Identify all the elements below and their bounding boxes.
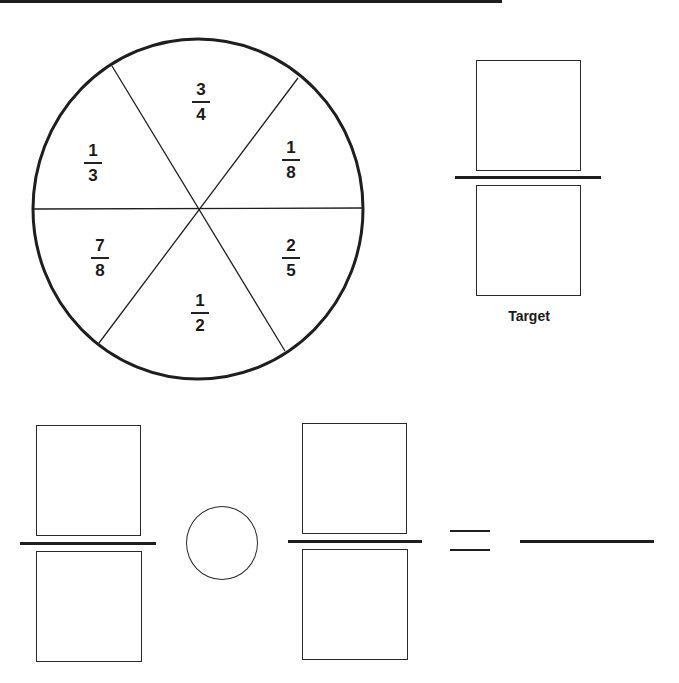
spinner-section-lower-left: 7 8 [80,236,120,281]
fraction-bar [191,312,209,314]
spinner-section-upper-left: 1 3 [73,141,113,186]
denominator: 5 [271,261,311,281]
fraction-bar [192,101,210,103]
fraction2-numerator-box[interactable] [302,423,407,534]
numerator: 3 [181,80,221,100]
numerator: 1 [180,291,220,311]
numerator: 7 [80,236,120,256]
denominator: 8 [271,163,311,183]
fraction2-bar [288,540,422,543]
fraction-bar [282,257,300,259]
spinner-section-top: 3 4 [181,80,221,125]
spinner-section-upper-right: 1 8 [271,138,311,183]
numerator: 1 [73,141,113,161]
fraction1-bar [20,542,156,545]
operator-circle[interactable] [186,506,258,580]
equals-sign-top [450,530,490,532]
target-label: Target [494,308,564,324]
fraction-bar [91,257,109,259]
numerator: 1 [271,138,311,158]
denominator: 4 [181,105,221,125]
target-fraction-bar [455,176,601,179]
fraction1-numerator-box[interactable] [36,425,141,536]
fraction-bar [282,159,300,161]
spinner-section-bottom: 1 2 [180,291,220,336]
spinner-section-lower-right: 2 5 [271,236,311,281]
equals-sign-bottom [450,549,490,551]
denominator: 3 [73,166,113,186]
answer-line[interactable] [520,540,654,543]
fraction2-denominator-box[interactable] [302,549,408,660]
denominator: 2 [180,316,220,336]
fraction-bar [84,162,102,164]
numerator: 2 [271,236,311,256]
fraction1-denominator-box[interactable] [36,551,142,662]
target-numerator-box[interactable] [476,60,581,171]
target-denominator-box[interactable] [476,185,581,296]
denominator: 8 [80,261,120,281]
